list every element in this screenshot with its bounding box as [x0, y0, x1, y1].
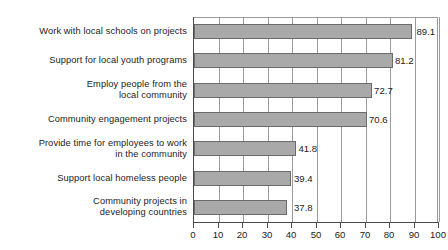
bar-value-label: 37.8 [294, 200, 313, 215]
bar [194, 112, 367, 127]
bar [194, 171, 291, 186]
category-label: Support local homeless people [0, 173, 190, 184]
x-axis-tick-label: 30 [262, 229, 273, 241]
x-axis-tick-label: 60 [335, 229, 346, 241]
bar-value-label: 81.2 [395, 53, 414, 68]
bar-value-label: 72.7 [374, 83, 393, 98]
x-axis-tick-70 [365, 223, 366, 228]
x-axis-tick-label: 10 [213, 229, 224, 241]
x-axis-tick-100 [438, 223, 439, 228]
x-axis-tick-label: 80 [384, 229, 395, 241]
x-axis-tick-90 [414, 223, 415, 228]
x-axis-tick-label: 0 [190, 229, 195, 241]
x-axis-tick-40 [291, 223, 292, 228]
category-label: Work with local schools on projects [0, 26, 190, 37]
bar-value-label: 39.4 [294, 171, 313, 186]
x-axis-tick-10 [218, 223, 219, 228]
x-axis-tick-30 [267, 223, 268, 228]
x-axis-tick-label: 20 [237, 229, 248, 241]
plot-top-rule [194, 17, 437, 18]
bar-value-label: 70.6 [369, 112, 388, 127]
bar [194, 53, 393, 68]
bar [194, 83, 372, 98]
x-axis-tick-20 [242, 223, 243, 228]
x-axis-tick-0 [193, 223, 194, 228]
x-axis-tick-60 [340, 223, 341, 228]
gridline-90 [415, 17, 416, 222]
x-axis-tick-50 [316, 223, 317, 228]
x-axis-tick-label: 50 [311, 229, 322, 241]
x-axis-tick-label: 40 [286, 229, 297, 241]
x-axis-tick-label: 70 [360, 229, 371, 241]
category-label: Employ people from the local community [0, 79, 190, 101]
bar-chart: Work with local schools on projectsSuppo… [0, 0, 448, 250]
plot-area [193, 17, 438, 222]
bar [194, 24, 412, 39]
bar-value-label: 41.8 [298, 141, 317, 156]
gridline-80 [390, 17, 391, 222]
bar [194, 200, 287, 215]
category-label: Support for local youth programs [0, 55, 190, 66]
category-label-column: Work with local schools on projectsSuppo… [0, 17, 190, 222]
category-label: Provide time for employees to work in th… [0, 138, 190, 160]
bar [194, 141, 296, 156]
category-label: Community engagement projects [0, 114, 190, 125]
x-axis-tick-label: 90 [409, 229, 420, 241]
gridline-100 [439, 17, 440, 222]
category-label: Community projects in developing countri… [0, 196, 190, 218]
x-axis-tick-80 [389, 223, 390, 228]
bar-value-label: 89.1 [417, 24, 436, 39]
x-axis-tick-label: 100 [430, 229, 446, 241]
